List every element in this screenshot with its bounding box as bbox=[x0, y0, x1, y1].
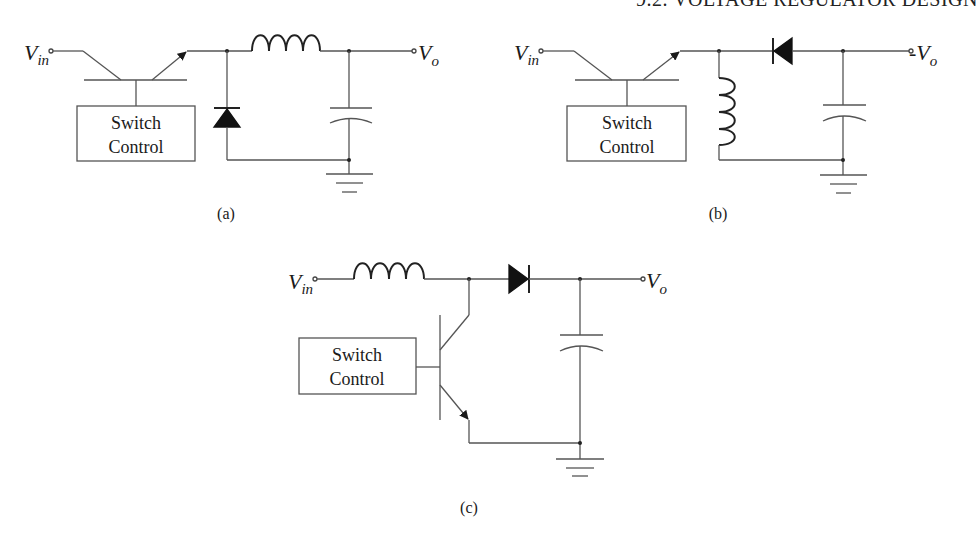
capacitor-curved-plate bbox=[330, 119, 372, 124]
vin-terminal bbox=[539, 49, 543, 53]
caption-b: (b) bbox=[709, 205, 728, 223]
transistor-collector bbox=[440, 315, 469, 350]
transistor-emitter bbox=[440, 385, 468, 419]
switch-control-line1-a: Switch bbox=[111, 113, 161, 133]
vo-label-a: Vo bbox=[418, 40, 439, 69]
switch-control-line1-b: Switch bbox=[602, 113, 652, 133]
caption-c: (c) bbox=[460, 499, 478, 517]
switch-control-line2-c: Control bbox=[329, 369, 384, 389]
junction-dot bbox=[841, 158, 845, 162]
vin-label-b: Vin bbox=[514, 40, 539, 68]
diode-triangle bbox=[214, 109, 240, 127]
vin-label-a: Vin bbox=[24, 40, 49, 68]
vo-label-b: -Vo bbox=[909, 40, 938, 69]
vin-terminal bbox=[313, 277, 317, 281]
switch-control-line2-a: Control bbox=[108, 137, 163, 157]
circuit-a bbox=[49, 35, 416, 192]
capacitor-curved-plate bbox=[560, 346, 603, 351]
inductor bbox=[252, 35, 320, 51]
diode-triangle bbox=[774, 38, 792, 64]
transistor-emitter bbox=[643, 52, 679, 80]
vin-label-c: Vin bbox=[288, 269, 313, 297]
inductor bbox=[719, 78, 735, 145]
transistor-collector bbox=[574, 51, 612, 80]
vo-label-c: Vo bbox=[646, 268, 667, 297]
junction-dot bbox=[578, 441, 582, 445]
capacitor-curved-plate bbox=[823, 116, 866, 121]
inductor bbox=[354, 263, 424, 279]
transistor-collector bbox=[83, 51, 121, 80]
vin-terminal bbox=[49, 49, 53, 53]
ground-icon bbox=[556, 459, 604, 476]
vo-terminal bbox=[412, 49, 416, 53]
ground-icon bbox=[820, 175, 867, 193]
ground-icon bbox=[326, 174, 373, 192]
junction-dot bbox=[347, 158, 351, 162]
circuit-b bbox=[539, 38, 913, 193]
switch-control-line2-b: Control bbox=[599, 137, 654, 157]
switch-control-line1-c: Switch bbox=[332, 345, 382, 365]
vo-terminal bbox=[641, 277, 645, 281]
transistor-emitter bbox=[152, 52, 186, 80]
caption-a: (a) bbox=[217, 205, 235, 223]
diode-triangle bbox=[509, 265, 528, 293]
